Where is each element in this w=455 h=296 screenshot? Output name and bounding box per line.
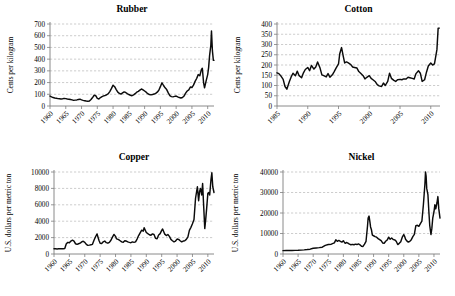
y-axis-label: U.S. dollars per metric ton [231,173,240,252]
x-tick-label: 1985 [266,109,282,125]
x-tick-label: 1965 [287,257,303,273]
x-tick-label: 1980 [332,257,348,273]
y-tick-label: 700 [34,21,45,29]
y-tick-label: 8000 [35,185,50,193]
y-tick-label: 300 [261,41,272,49]
x-tick-label: 2005 [389,109,405,125]
x-tick-label: 1985 [118,109,134,125]
x-tick-label: 1975 [86,109,102,125]
series-line [283,172,440,251]
x-tick-label: 1990 [135,257,151,273]
x-tick-label: 1995 [149,109,165,125]
x-tick-label: 1990 [297,109,313,125]
x-tick-label: 2000 [393,257,409,273]
copper-chart: Copper0200040006000800010000196019651970… [0,148,227,296]
y-tick-label: 4000 [35,218,50,226]
x-tick-label: 1965 [58,257,74,273]
x-tick-label: 2010 [423,257,439,273]
y-axis-label: U.S. dollars per metric ton [4,173,13,252]
x-tick-label: 2000 [358,109,374,125]
x-tick-label: 1970 [302,257,318,273]
x-tick-label: 2005 [181,109,197,125]
series-line [50,31,214,101]
y-tick-label: 0 [268,103,272,111]
x-tick-label: 2010 [197,257,213,273]
y-tick-label: 40000 [260,169,278,177]
chart-title: Cotton [345,4,374,14]
y-tick-label: 250 [261,51,272,59]
y-axis-label: Cents per kilogram [233,36,242,93]
panel-rubber: Rubber0100200300400500600700196019651970… [0,0,227,148]
y-tick-label: 400 [34,56,45,64]
chart-title: Copper [119,152,150,162]
panel-copper: Copper0200040006000800010000196019651970… [0,148,227,296]
y-axis-label: Cents per kilogram [6,36,15,93]
x-tick-label: 1985 [348,257,364,273]
x-tick-label: 1980 [102,109,118,125]
x-tick-label: 2000 [165,109,181,125]
y-tick-label: 350 [261,31,272,39]
y-tick-label: 20000 [260,210,278,218]
y-tick-label: 30000 [260,189,278,197]
x-tick-label: 1995 [151,257,167,273]
x-tick-label: 1970 [71,109,87,125]
y-tick-label: 0 [274,251,278,259]
y-tick-label: 10000 [31,169,49,177]
panel-cotton: Cotton0501001502002503003504001985199019… [227,0,455,148]
panel-nickel: Nickel0100002000030000400001960196519701… [227,148,455,296]
nickel-chart: Nickel0100002000030000400001960196519701… [227,148,455,296]
y-tick-label: 200 [34,79,45,87]
x-tick-label: 1980 [105,257,121,273]
y-tick-label: 6000 [35,201,50,209]
y-tick-label: 0 [45,251,49,259]
chart-title: Nickel [349,152,375,162]
commodity-price-figure: Rubber0100200300400500600700196019651970… [0,0,455,296]
y-tick-label: 600 [34,32,45,40]
y-tick-label: 10000 [260,230,278,238]
x-tick-label: 2010 [420,109,436,125]
x-tick-label: 1960 [39,109,55,125]
x-tick-label: 1990 [134,109,150,125]
y-tick-label: 150 [261,72,272,80]
rubber-chart: Rubber0100200300400500600700196019651970… [0,0,227,148]
x-tick-label: 2010 [197,109,213,125]
y-tick-label: 100 [261,82,272,90]
y-tick-label: 500 [34,44,45,52]
x-tick-label: 1985 [120,257,136,273]
y-tick-label: 400 [261,21,272,29]
y-tick-label: 200 [261,62,272,70]
cotton-chart: Cotton0501001502002503003504001985199019… [227,0,455,148]
y-tick-label: 300 [34,67,45,75]
x-tick-label: 1995 [378,257,394,273]
x-tick-label: 1960 [43,257,59,273]
y-tick-label: 0 [41,103,45,111]
x-tick-label: 1975 [317,257,333,273]
series-line [277,28,439,89]
x-tick-label: 1960 [272,257,288,273]
y-tick-label: 2000 [35,234,50,242]
y-tick-label: 50 [265,92,273,100]
x-tick-label: 2005 [408,257,424,273]
x-tick-label: 1995 [328,109,344,125]
x-tick-label: 1965 [55,109,71,125]
x-tick-label: 1970 [74,257,90,273]
x-tick-label: 1990 [363,257,379,273]
x-tick-label: 1975 [89,257,105,273]
x-tick-label: 2005 [182,257,198,273]
x-tick-label: 2000 [166,257,182,273]
y-tick-label: 100 [34,91,45,99]
chart-title: Rubber [116,4,148,14]
